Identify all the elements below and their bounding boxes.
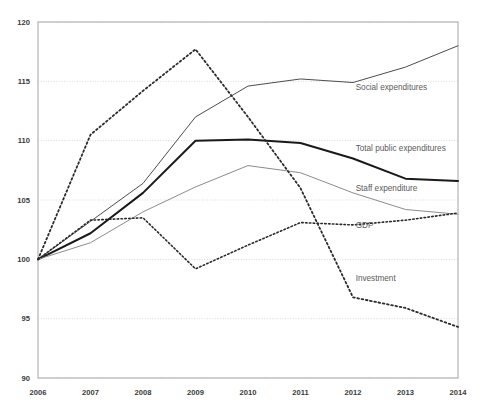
x-tick-label-2012: 2012	[345, 388, 362, 397]
line-chart: 9095100105110115120 20062007200820092010…	[0, 0, 482, 418]
series-label-social-expenditures: Social expenditures	[356, 83, 427, 92]
y-tick-label-120: 120	[17, 18, 30, 27]
y-tick-label-95: 95	[22, 314, 31, 323]
x-tick-label-2011: 2011	[292, 388, 309, 397]
x-tick-label-2013: 2013	[397, 388, 414, 397]
chart-background	[0, 0, 482, 418]
series-label-total-public-expenditures: Total public expenditures	[356, 144, 446, 153]
x-tick-label-2007: 2007	[82, 388, 99, 397]
y-tick-label-115: 115	[18, 77, 31, 86]
y-tick-label-90: 90	[22, 374, 30, 383]
y-tick-label-100: 100	[17, 255, 30, 264]
x-tick-label-2009: 2009	[187, 388, 204, 397]
x-axis-tick-labels: 200620072008200920102011201220132014	[30, 388, 468, 397]
x-tick-label-2006: 2006	[30, 388, 47, 397]
y-tick-label-105: 105	[17, 196, 30, 205]
series-label-staff-expenditure: Staff expenditure	[356, 184, 418, 193]
y-tick-label-110: 110	[18, 136, 30, 145]
series-label-investment: Investment	[356, 274, 397, 283]
x-tick-label-2010: 2010	[240, 388, 257, 397]
chart-container: 9095100105110115120 20062007200820092010…	[0, 0, 482, 418]
x-tick-label-2014: 2014	[450, 388, 468, 397]
x-tick-label-2008: 2008	[135, 388, 152, 397]
series-label-gdp: GDP	[356, 221, 374, 230]
